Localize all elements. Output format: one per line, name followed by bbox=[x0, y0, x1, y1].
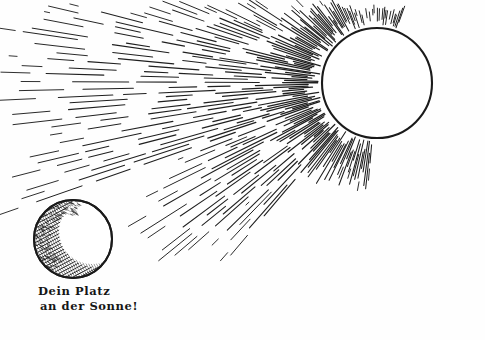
sun-ray-dash bbox=[9, 56, 17, 57]
earth-sphere-group bbox=[34, 200, 112, 278]
illustration-canvas: Dein Platz an der Sonne! bbox=[0, 0, 485, 340]
sun-disc bbox=[322, 28, 432, 138]
sun-illustration-svg bbox=[0, 0, 485, 340]
sun-ray-dash bbox=[169, 87, 197, 88]
